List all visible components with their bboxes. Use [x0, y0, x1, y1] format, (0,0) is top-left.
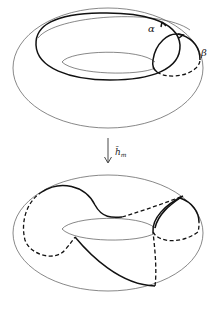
bottom-torus	[13, 175, 203, 291]
map-label: h̄m	[115, 146, 127, 158]
top-torus-rim	[38, 17, 190, 38]
image-curve-left-back	[24, 192, 75, 256]
map-arrow: h̄m	[105, 138, 127, 163]
image-curve-lower	[75, 237, 155, 286]
beta-arrow-icon	[178, 34, 183, 38]
image-curve-top-back	[122, 196, 183, 217]
beta-label: β	[200, 47, 207, 58]
beta-curve-back	[157, 60, 200, 76]
torus-diagram: α β h̄m	[0, 0, 217, 309]
top-torus-outline	[13, 8, 203, 128]
alpha-label: α	[148, 23, 155, 34]
alpha-arrow-icon	[161, 22, 166, 27]
bottom-hole-upper	[62, 218, 155, 229]
top-hole-upper	[62, 52, 155, 62]
top-torus: α β	[13, 8, 207, 128]
image-curve-upper	[42, 186, 122, 218]
image-curve-right-back	[153, 232, 156, 286]
top-hole-lower	[62, 62, 155, 73]
beta-image-front-2	[155, 198, 199, 228]
beta-image-back	[153, 222, 199, 241]
beta-curve-front-left	[153, 34, 182, 72]
